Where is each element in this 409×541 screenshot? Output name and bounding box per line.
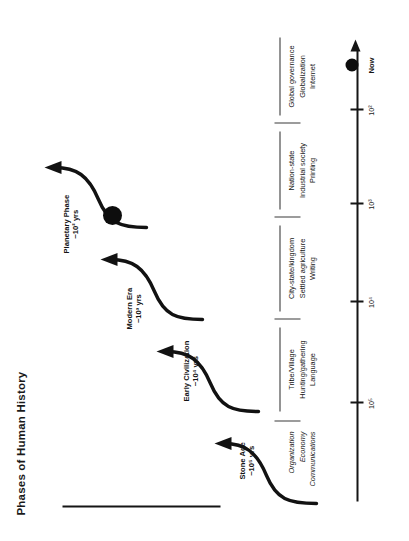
time-axis-tick	[350, 202, 363, 204]
arrowhead-3	[100, 253, 117, 266]
phase-duration: ~10⁴ yrs	[191, 340, 200, 401]
cell-communications: Internet	[307, 45, 318, 107]
time-axis-tick	[350, 108, 363, 110]
row-header-economy: Economy	[297, 431, 308, 507]
time-tick-label-1e3: 10³	[366, 199, 375, 209]
cell-organization: Global governance	[286, 45, 297, 107]
cell-organization: City-state/kingdom	[286, 237, 297, 298]
cell-organization: Tribe/Village	[286, 340, 297, 398]
cell-economy: Industrial society	[297, 142, 308, 197]
time-axis-arrowhead	[350, 39, 360, 51]
time-axis-tick	[350, 300, 363, 302]
column-rule	[279, 225, 280, 311]
attribute-column-city-state: City-state/kingdom Settled agriculture W…	[286, 237, 318, 298]
phase-duration: ~10² yrs	[71, 194, 80, 253]
page-title: Phases of Human History	[14, 371, 26, 515]
cell-communications: Writing	[307, 237, 318, 298]
row-header-communications: Communications	[307, 431, 318, 507]
column-separator	[274, 420, 300, 421]
now-label: Now	[366, 57, 375, 73]
time-tick-label-1e5: 10⁵	[366, 398, 375, 409]
arrowhead-1	[214, 437, 231, 450]
phase-label-modern-era: Modern Era ~10³ yrs	[125, 287, 143, 329]
time-tick-label-1e2: 10²	[366, 105, 375, 115]
cell-organization: Nation-state	[286, 142, 297, 197]
cell-communications: Language	[307, 340, 318, 398]
column-rule	[279, 327, 280, 411]
figure-canvas: Phases of Human History Complexity	[0, 0, 409, 541]
attribute-column-nation-state: Nation-state Industrial society Printing	[286, 142, 318, 197]
time-axis-line	[356, 49, 358, 501]
attribute-table: Organization Economy Communications Trib…	[252, 41, 338, 507]
now-marker-dot	[345, 59, 358, 72]
column-separator	[274, 122, 300, 123]
arrowhead-2	[156, 345, 173, 358]
cell-economy: Settled agriculture	[297, 237, 308, 298]
present-marker-dot	[103, 206, 122, 225]
column-separator	[274, 216, 300, 217]
phase-label-early-civilization: Early Civilization ~10⁴ yrs	[182, 340, 200, 401]
row-header-organization: Organization	[286, 431, 297, 507]
arrowhead-4	[44, 161, 61, 174]
time-tick-label-1e4: 10⁴	[366, 296, 375, 307]
column-rule	[279, 131, 280, 209]
column-rule	[279, 37, 280, 115]
column-separator	[274, 318, 300, 319]
phase-duration: ~10³ yrs	[134, 287, 143, 329]
phase-label-planetary-phase: Planetary Phase ~10² yrs	[62, 194, 80, 253]
attribute-column-global-governance: Global governance Globalization Internet	[286, 45, 318, 107]
cell-economy: Globalization	[297, 45, 308, 107]
cell-economy: Hunting/gathering	[297, 340, 308, 398]
time-axis-tick	[350, 401, 363, 403]
attribute-row-headers: Organization Economy Communications	[286, 431, 318, 507]
cell-communications: Printing	[307, 142, 318, 197]
attribute-column-tribe-village: Tribe/Village Hunting/gathering Language	[286, 340, 318, 398]
